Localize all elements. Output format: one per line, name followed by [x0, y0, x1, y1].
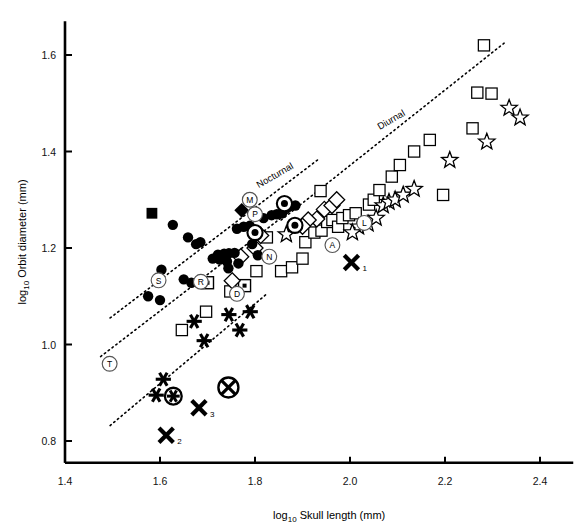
letter-marker-text: R	[198, 277, 204, 287]
letter-marker-r: R	[193, 274, 208, 289]
x-tick-label: 2.4	[533, 475, 548, 487]
marker-open-square	[386, 171, 397, 182]
x-tick-label: 1.8	[248, 475, 263, 487]
series-circled-asterisk	[165, 388, 182, 405]
marker-asterisk	[187, 315, 202, 328]
marker-subscript-label: 3	[210, 410, 215, 419]
y-tick-label: 1.6	[41, 49, 56, 61]
marker-circle-dot-core	[281, 200, 288, 207]
marker-open-square	[486, 88, 497, 99]
marker-x	[344, 255, 358, 269]
marker-x	[159, 428, 173, 442]
marker-open-square	[251, 266, 262, 277]
series-filled-circle	[143, 200, 301, 305]
marker-filled-circle	[183, 232, 193, 242]
letter-marker-s: S	[151, 273, 166, 288]
marker-x	[192, 401, 206, 415]
letter-marker-text: N	[266, 252, 272, 262]
marker-open-square	[200, 306, 211, 317]
letter-marker-m: M	[242, 192, 257, 207]
marker-open-square	[286, 262, 297, 273]
series-filled-square	[147, 208, 158, 219]
x-tick-label: 1.4	[58, 475, 73, 487]
marker-open-square	[424, 134, 435, 145]
annotation-diurnal: Diurnal	[375, 107, 407, 132]
marker-square-dot-core	[243, 284, 247, 288]
chart-canvas: 1.41.61.82.02.22.40.81.01.21.41.6log10 S…	[0, 0, 584, 524]
marker-open-star	[442, 152, 458, 168]
marker-circle-dot-core	[291, 222, 298, 229]
marker-open-square	[472, 87, 483, 98]
marker-asterisk	[232, 323, 247, 336]
letter-marker-a: A	[325, 238, 340, 253]
marker-filled-circle	[233, 258, 243, 268]
y-tick-label: 1.0	[41, 339, 56, 351]
marker-open-star	[512, 109, 528, 125]
marker-filled-circle	[143, 291, 153, 301]
x-tick-label: 1.6	[153, 475, 168, 487]
marker-circle-dot-core	[252, 229, 259, 236]
marker-asterisk	[221, 308, 236, 321]
scatter-plot-figure: 1.41.61.82.02.22.40.81.01.21.41.6log10 S…	[0, 0, 584, 524]
marker-filled-circle	[155, 295, 165, 305]
marker-open-square	[297, 253, 308, 264]
letter-marker-d: D	[230, 286, 245, 301]
series-asterisk	[149, 305, 258, 402]
marker-open-square	[467, 123, 478, 134]
letter-marker-l: L	[357, 216, 372, 231]
letter-marker-text: M	[246, 195, 253, 205]
marker-filled-circle	[229, 248, 239, 258]
x-axis-title: log10 Skull length (mm)	[273, 509, 385, 524]
letter-marker-text: T	[107, 359, 112, 369]
letter-marker-text: P	[252, 209, 258, 219]
letter-marker-n: N	[262, 249, 277, 264]
marker-circled-x	[218, 377, 238, 397]
letter-marker-text: A	[330, 240, 336, 250]
marker-open-square	[394, 159, 405, 170]
y-tick-label: 1.4	[41, 146, 56, 158]
marker-open-square	[374, 185, 385, 196]
letter-marker-text: S	[156, 276, 162, 286]
svg-text:log10 Orbit diameter (mm): log10 Orbit diameter (mm)	[16, 179, 31, 304]
marker-filled-circle	[223, 263, 233, 273]
marker-open-star	[479, 133, 495, 149]
y-tick-label: 0.8	[41, 435, 56, 447]
marker-open-square	[409, 146, 420, 157]
marker-open-star	[501, 99, 517, 115]
letter-marker-text: D	[234, 289, 240, 299]
marker-subscript-label: 1	[362, 264, 367, 273]
marker-subscript-label: 2	[177, 437, 182, 446]
marker-filled-circle	[195, 237, 205, 247]
letter-marker-text: L	[362, 218, 367, 228]
series-circled-x	[218, 377, 238, 397]
letter-marker-p: P	[248, 207, 263, 222]
annotation-nocturnal: Nocturnal	[254, 160, 295, 190]
marker-open-square	[315, 185, 326, 196]
series-open-square	[176, 40, 497, 336]
marker-filled-square	[147, 208, 158, 219]
marker-asterisk	[197, 334, 212, 347]
marker-open-square	[176, 324, 187, 335]
letter-marker-t: T	[102, 356, 117, 371]
marker-filled-circle	[168, 220, 178, 230]
marker-open-square	[478, 40, 489, 51]
y-axis-title: log10 Orbit diameter (mm)	[16, 179, 31, 304]
marker-open-square	[276, 266, 287, 277]
marker-circled-asterisk	[165, 388, 182, 405]
marker-asterisk	[156, 373, 171, 386]
marker-open-square	[438, 189, 449, 200]
bottom-line	[110, 294, 267, 426]
y-tick-label: 1.2	[41, 242, 56, 254]
x-tick-label: 2.2	[438, 475, 453, 487]
curve-annotations: DiurnalNocturnal	[254, 107, 407, 190]
x-tick-label: 2.0	[343, 475, 358, 487]
